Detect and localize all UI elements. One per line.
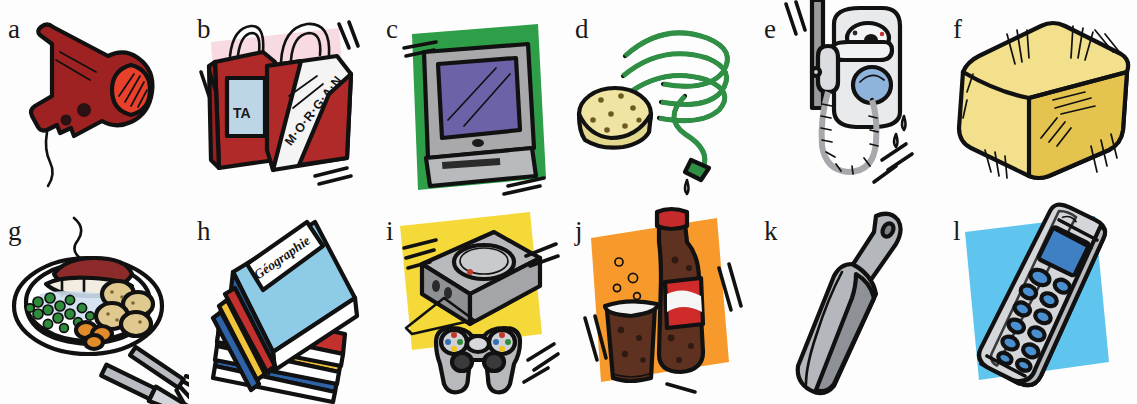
stack-of-books-illustration: Géographie <box>189 202 378 404</box>
item-label-d: d <box>575 16 589 43</box>
item-label-f: f <box>953 16 962 43</box>
item-label-b: b <box>197 16 211 43</box>
item-label-e: e <box>764 16 776 43</box>
exercise-item-j[interactable]: j <box>567 202 756 404</box>
hair-dryer-illustration <box>0 0 189 202</box>
item-label-g: g <box>8 218 22 245</box>
garden-hose-illustration <box>567 0 756 202</box>
exercise-item-b[interactable]: b TA M·O <box>189 0 378 202</box>
straw-bale-illustration <box>945 0 1134 202</box>
exercise-item-k[interactable]: k <box>756 202 945 404</box>
shower-heater-illustration <box>756 0 945 202</box>
item-label-a: a <box>8 16 20 43</box>
mobile-phone-illustration <box>945 202 1134 404</box>
item-label-l: l <box>953 218 961 245</box>
exercise-item-d[interactable]: d <box>567 0 756 202</box>
exercise-item-a[interactable]: a <box>0 0 189 202</box>
item-label-c: c <box>386 16 398 43</box>
exercise-item-c[interactable]: c <box>378 0 567 202</box>
exercise-sheet: a <box>0 0 1137 404</box>
item-label-k: k <box>764 218 778 245</box>
item-label-h: h <box>197 218 211 245</box>
plate-of-food-illustration <box>0 202 189 404</box>
scoop-illustration <box>756 202 945 404</box>
television-illustration <box>378 0 567 202</box>
exercise-row-top: a <box>0 0 1137 202</box>
exercise-item-i[interactable]: i <box>378 202 567 404</box>
game-console-illustration <box>378 202 567 404</box>
exercise-item-g[interactable]: g <box>0 202 189 404</box>
item-label-i: i <box>386 218 394 245</box>
cola-bottle-glass-illustration <box>567 202 756 404</box>
bag-text-ta: TA <box>233 105 251 121</box>
exercise-item-f[interactable]: f <box>945 0 1134 202</box>
shopping-bags-illustration: TA M·O·R·G·A·N <box>189 0 378 202</box>
exercise-row-bottom: g <box>0 202 1137 404</box>
exercise-item-e[interactable]: e <box>756 0 945 202</box>
exercise-item-l[interactable]: l <box>945 202 1134 404</box>
item-label-j: j <box>575 218 583 245</box>
exercise-item-h[interactable]: h Géographie <box>189 202 378 404</box>
